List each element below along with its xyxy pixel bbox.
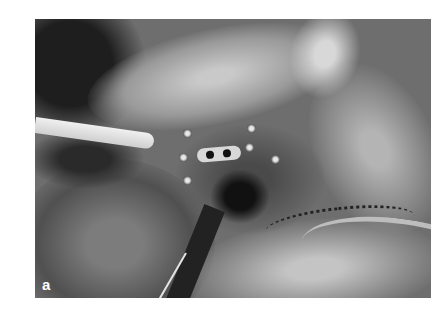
- screw-shape: [179, 153, 188, 162]
- screw-shape: [247, 124, 256, 133]
- screw-shape: [271, 155, 280, 164]
- panel-label: a: [42, 277, 50, 292]
- screw-shape: [183, 176, 192, 185]
- figure-photograph: a: [35, 19, 431, 298]
- screw-shape: [245, 143, 254, 152]
- screw-shape: [183, 129, 192, 138]
